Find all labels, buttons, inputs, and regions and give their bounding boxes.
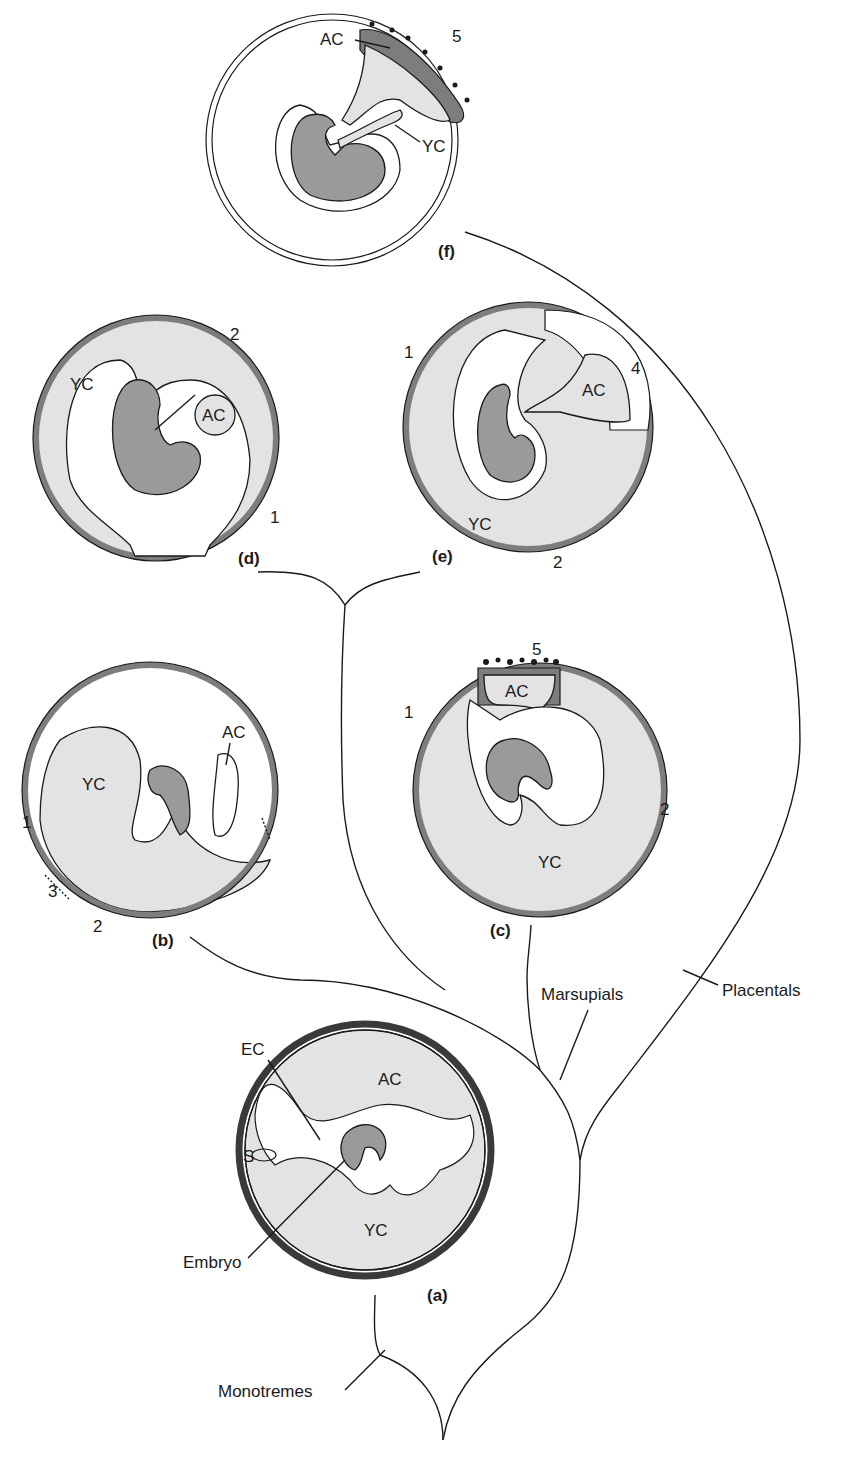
label-ac-d: AC: [202, 406, 226, 425]
label-yc-c: YC: [538, 853, 562, 872]
panel-c: [413, 658, 667, 918]
label-yc-e: YC: [468, 515, 492, 534]
branch-to-e: [345, 572, 420, 605]
monotremes-leader: [345, 1350, 385, 1390]
label-yc-a: YC: [364, 1221, 388, 1240]
panel-d: [33, 315, 279, 561]
marsupials-label: Marsupials: [541, 985, 623, 1004]
monotreme-branch: [374, 1295, 443, 1440]
caption-f: (f): [438, 242, 455, 261]
marsupial-stem: [540, 1070, 580, 1160]
label-yc-f: YC: [422, 137, 446, 156]
label-yc-b: YC: [82, 775, 106, 794]
panel-b: [22, 662, 278, 918]
label-2-c: 2: [660, 800, 669, 819]
diagram-canvas: Monotremes Marsupials Placentals 5 AC YC…: [0, 0, 842, 1460]
branch-to-c: [527, 925, 540, 1070]
label-ac-b: AC: [222, 723, 246, 742]
label-ac-c: AC: [505, 682, 529, 701]
label-ec-a: EC: [241, 1040, 265, 1059]
label-ac-a: AC: [378, 1070, 402, 1089]
marsupials-leader: [560, 1010, 588, 1080]
label-4-e: 4: [631, 359, 640, 378]
branch-to-d: [258, 572, 345, 605]
label-1-b: 1: [22, 813, 31, 832]
caption-b: (b): [152, 931, 174, 950]
label-s-a: S: [243, 1147, 254, 1166]
caption-c: (c): [490, 921, 511, 940]
caption-e: (e): [432, 547, 453, 566]
label-3-b: 3: [48, 882, 57, 901]
caption-d: (d): [238, 549, 260, 568]
label-embryo-a: Embryo: [183, 1253, 242, 1272]
placentals-leader: [683, 970, 718, 985]
monotremes-label: Monotremes: [218, 1382, 312, 1401]
caption-a: (a): [427, 1286, 448, 1305]
label-ac-e: AC: [582, 381, 606, 400]
panel-e: [403, 302, 653, 552]
label-5-f: 5: [452, 27, 461, 46]
label-2-e: 2: [553, 553, 562, 572]
label-1-e: 1: [404, 343, 413, 362]
label-1-d: 1: [270, 508, 279, 527]
label-1-c: 1: [404, 703, 413, 722]
placentals-label: Placentals: [722, 981, 800, 1000]
label-2-d: 2: [230, 325, 239, 344]
label-5-c: 5: [532, 640, 541, 659]
label-2-b: 2: [93, 917, 102, 936]
label-yc-d: YC: [70, 375, 94, 394]
label-ac-f: AC: [320, 30, 344, 49]
